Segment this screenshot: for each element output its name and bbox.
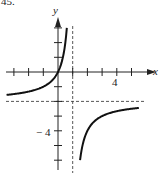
right-branch-curve [80, 108, 139, 160]
graph [0, 0, 165, 173]
y-tick-label-neg4: − 4 [36, 127, 50, 138]
axes [6, 17, 156, 170]
x-axis-label: x [153, 66, 158, 77]
x-tick-label-4: 4 [112, 77, 118, 88]
y-axis-label: y [53, 5, 58, 16]
y-axis-arrow-icon [55, 17, 61, 27]
asymptotes [6, 26, 145, 173]
problem-number: 45. [1, 0, 15, 7]
